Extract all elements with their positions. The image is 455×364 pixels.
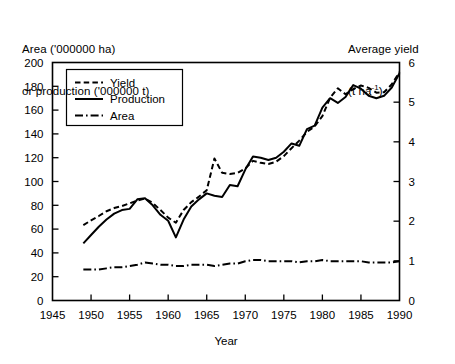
figure-container: Area ('000000 ha) or production ('000000… (0, 0, 455, 364)
y-left-tick-label: 140 (24, 128, 43, 140)
y-left-tick-label: 100 (24, 176, 43, 188)
left-axis-caption: Area ('000000 ha) or production ('000000… (22, 14, 149, 126)
right-axis-caption: Average yield (t ha-1) (348, 14, 419, 126)
y-left-tick-label: 80 (31, 200, 44, 212)
y-right-tick-label: 4 (409, 136, 416, 148)
y-left-tick-label: 0 (37, 295, 43, 307)
x-tick-label: 1970 (232, 309, 258, 321)
y-right-tick-label: 1 (409, 255, 415, 267)
y-left-tick-label: 40 (31, 247, 44, 259)
left-axis-caption-line2: or production ('000000 t) (22, 84, 149, 98)
x-tick-label: 1990 (387, 309, 413, 321)
right-unit-exponent: -1 (372, 83, 379, 92)
x-tick-label: 1960 (155, 309, 181, 321)
x-axis-title: Year (214, 335, 237, 347)
x-tick-label: 1965 (194, 309, 220, 321)
right-axis-caption-line1: Average yield (348, 42, 419, 56)
x-tick-label: 1985 (348, 309, 374, 321)
x-tick-label: 1950 (78, 309, 104, 321)
right-unit-suffix: ) (379, 85, 383, 97)
right-axis-caption-line2: (t ha-1) (348, 84, 419, 98)
y-right-tick-label: 0 (409, 295, 415, 307)
y-left-tick-label: 20 (31, 271, 44, 283)
left-axis-caption-line1: Area ('000000 ha) (22, 42, 149, 56)
y-left-tick-label: 120 (24, 152, 43, 164)
series-line-area (83, 260, 399, 270)
right-unit-prefix: (t ha (348, 85, 372, 97)
x-tick-label: 1945 (40, 309, 66, 321)
y-right-tick-label: 2 (409, 215, 415, 227)
x-tick-label: 1975 (271, 309, 297, 321)
x-tick-label: 1955 (117, 309, 143, 321)
y-right-tick-label: 3 (409, 176, 415, 188)
x-axis-ticks: 1945195019551960196519701975198019851990 (40, 295, 413, 321)
y-left-tick-label: 60 (31, 223, 44, 235)
x-tick-label: 1980 (310, 309, 336, 321)
